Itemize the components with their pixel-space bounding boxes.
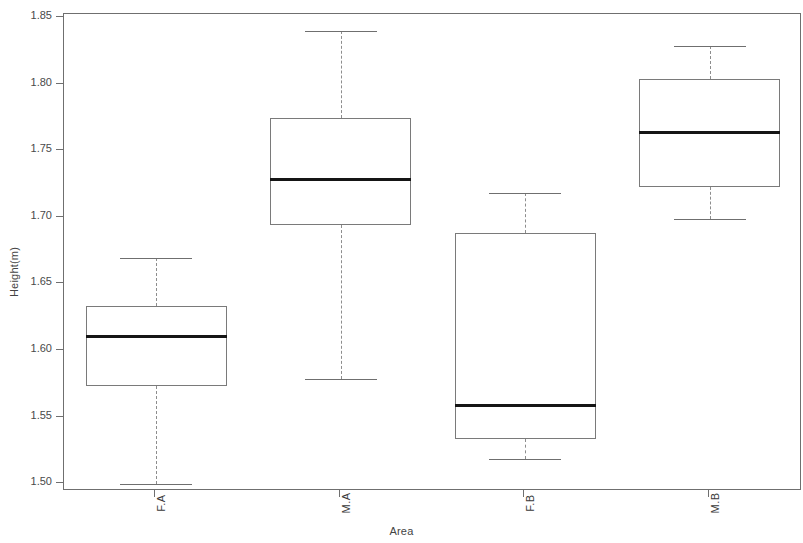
lower-whisker: [710, 187, 711, 219]
y-tick-label: 1.50: [31, 475, 52, 487]
lower-whisker: [156, 386, 157, 485]
y-tick-label: 1.55: [31, 409, 52, 421]
plot-area: [63, 13, 801, 490]
y-tick-mark: [56, 482, 63, 483]
y-tick-label: 1.70: [31, 209, 52, 221]
upper-whisker: [525, 193, 526, 233]
median-line: [455, 404, 596, 407]
x-tick-label: M.B: [709, 492, 721, 513]
upper-whisker-cap: [489, 193, 561, 194]
x-tick-label: M.A: [340, 492, 352, 513]
upper-whisker-cap: [120, 258, 192, 259]
median-line: [86, 335, 227, 338]
lower-whisker: [525, 439, 526, 459]
y-axis-title: Height(m): [8, 232, 20, 312]
lower-whisker-cap: [305, 379, 377, 380]
upper-whisker: [156, 258, 157, 306]
upper-whisker-cap: [305, 31, 377, 32]
lower-whisker-cap: [489, 459, 561, 460]
box-iqr: [455, 233, 596, 440]
y-tick-label: 1.80: [31, 76, 52, 88]
upper-whisker: [710, 46, 711, 79]
x-tick-label: F.A: [155, 494, 167, 511]
y-tick-label: 1.65: [31, 275, 52, 287]
y-tick-mark: [56, 216, 63, 217]
lower-whisker-cap: [120, 484, 192, 485]
y-tick-mark: [56, 16, 63, 17]
y-tick-label: 1.75: [31, 142, 52, 154]
y-tick-mark: [56, 282, 63, 283]
upper-whisker-cap: [674, 46, 746, 47]
median-line: [639, 131, 780, 134]
x-tick-label: F.B: [524, 494, 536, 511]
y-tick-label: 1.60: [31, 342, 52, 354]
y-tick-mark: [56, 149, 63, 150]
upper-whisker: [341, 31, 342, 118]
lower-whisker: [341, 225, 342, 380]
lower-whisker-cap: [674, 219, 746, 220]
boxplot-chart: Height(m) Area 1.501.551.601.651.701.751…: [0, 0, 803, 543]
box-iqr: [86, 306, 227, 386]
median-line: [270, 178, 411, 181]
y-tick-label: 1.85: [31, 9, 52, 21]
x-axis-title: Area: [0, 525, 803, 537]
box-iqr: [270, 118, 411, 225]
y-tick-mark: [56, 83, 63, 84]
y-tick-mark: [56, 349, 63, 350]
y-tick-mark: [56, 416, 63, 417]
